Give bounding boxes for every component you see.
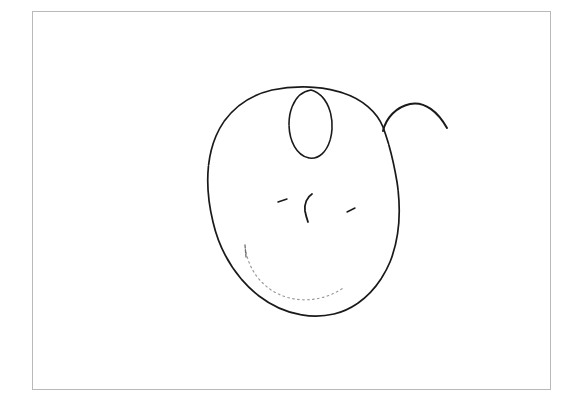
right-eye-mark-stroke [347, 208, 355, 212]
main-body-outline-stroke [208, 87, 399, 316]
nose-stroke [305, 194, 312, 222]
chin-tick-stroke [245, 245, 246, 257]
inner-loop-stroke [289, 90, 332, 158]
screenshot-canvas [0, 0, 578, 406]
mouth-arc-stroke [246, 252, 343, 300]
stem-arc-stroke [383, 104, 447, 131]
left-eye-mark-stroke [278, 199, 287, 202]
sketch-drawing [0, 0, 578, 406]
